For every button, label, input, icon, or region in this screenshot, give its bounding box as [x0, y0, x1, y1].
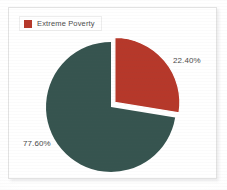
- pie-slice-extreme-poverty-group: [115, 37, 180, 112]
- chart-legend: Extreme Poverty: [19, 16, 102, 31]
- legend-item-label: Extreme Poverty: [37, 19, 95, 28]
- pie-slice-value-label-extreme-poverty: 22.40%: [173, 56, 201, 65]
- pie-slice-value-label-not-extreme-poverty: 77.60%: [23, 139, 51, 148]
- pie-chart-card: Extreme Poverty 22.40% 77.60%: [8, 7, 217, 179]
- pie-chart-svg: [9, 8, 218, 180]
- pie-chart-plot-area: [9, 8, 218, 180]
- pie-slice-extreme-poverty[interactable]: [115, 37, 180, 112]
- legend-color-swatch: [24, 20, 32, 28]
